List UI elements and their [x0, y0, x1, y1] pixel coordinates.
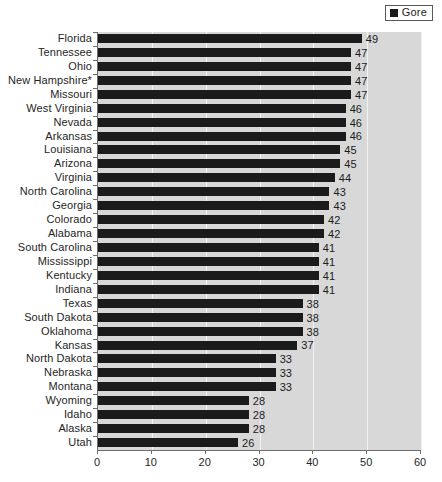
category-label: Missouri — [50, 88, 92, 101]
category-label: North Carolina — [20, 185, 92, 198]
bar[interactable] — [98, 145, 340, 154]
bar[interactable] — [98, 438, 238, 447]
bar-value-label: 41 — [323, 284, 335, 296]
x-tick-label-0: 0 — [94, 456, 100, 468]
chart-legend: Gore — [385, 5, 433, 21]
category-label: West Virginia — [26, 102, 92, 115]
bar[interactable] — [98, 173, 335, 182]
bar[interactable] — [98, 34, 362, 43]
legend-swatch-gore — [390, 9, 398, 17]
bar-value-label: 41 — [323, 242, 335, 254]
bar[interactable] — [98, 271, 319, 280]
bar[interactable] — [98, 368, 276, 377]
bar-row: 45 — [98, 157, 421, 171]
bar[interactable] — [98, 132, 346, 141]
bar[interactable] — [98, 243, 319, 252]
bar[interactable] — [98, 299, 303, 308]
category-label: Arizona — [54, 157, 92, 170]
bar[interactable] — [98, 76, 351, 85]
category-label: South Carolina — [18, 241, 92, 254]
category-label: Nevada — [53, 116, 92, 129]
x-tick-mark-20 — [205, 450, 206, 454]
bar[interactable] — [98, 104, 346, 113]
category-label: New Hampshire* — [8, 74, 92, 87]
bar[interactable] — [98, 159, 340, 168]
bar-row: 37 — [98, 339, 421, 353]
category-axis-labels: FloridaTennesseeOhioNew Hampshire*Missou… — [0, 32, 92, 450]
bar-row: 43 — [98, 185, 421, 199]
bar[interactable] — [98, 382, 276, 391]
bar[interactable] — [98, 313, 303, 322]
bar-value-label: 38 — [307, 297, 319, 309]
category-label: Oklahoma — [41, 325, 92, 338]
category-label: Arkansas — [45, 130, 92, 143]
bar[interactable] — [98, 285, 319, 294]
bar[interactable] — [98, 410, 249, 419]
category-label: Kansas — [55, 339, 92, 352]
category-label: Ohio — [68, 60, 92, 73]
bar-value-label: 45 — [344, 158, 356, 170]
category-label: Wyoming — [46, 394, 92, 407]
bar-row: 41 — [98, 241, 421, 255]
x-tick-mark-0 — [97, 450, 98, 454]
bar-rows: 4947474747464646454544434342424141414138… — [98, 32, 421, 450]
bar[interactable] — [98, 48, 351, 57]
bar-value-label: 42 — [328, 228, 340, 240]
bar-value-label: 49 — [366, 33, 378, 45]
bar-row: 49 — [98, 32, 421, 46]
bar-value-label: 45 — [344, 144, 356, 156]
bar-value-label: 41 — [323, 256, 335, 268]
bar-row: 33 — [98, 352, 421, 366]
bar[interactable] — [98, 341, 297, 350]
bar-value-label: 47 — [355, 61, 367, 73]
bar[interactable] — [98, 257, 319, 266]
bar[interactable] — [98, 118, 346, 127]
bar[interactable] — [98, 201, 329, 210]
bar-row: 41 — [98, 283, 421, 297]
category-label: Utah — [68, 436, 92, 449]
bar-row: 47 — [98, 74, 421, 88]
bar-row: 47 — [98, 60, 421, 74]
bar[interactable] — [98, 396, 249, 405]
category-label: Indiana — [55, 283, 92, 296]
category-label: Texas — [63, 297, 92, 310]
bar-row: 33 — [98, 366, 421, 380]
x-tick-label-50: 50 — [360, 456, 372, 468]
bar-row: 47 — [98, 46, 421, 60]
x-tick-mark-60 — [420, 450, 421, 454]
bar-row: 43 — [98, 199, 421, 213]
bar[interactable] — [98, 327, 303, 336]
bar-value-label: 43 — [333, 186, 345, 198]
bar[interactable] — [98, 90, 351, 99]
bar[interactable] — [98, 354, 276, 363]
bar[interactable] — [98, 187, 329, 196]
chart-container: Gore FloridaTennesseeOhioNew Hampshire*M… — [0, 0, 442, 482]
bar-row: 44 — [98, 171, 421, 185]
bar-value-label: 33 — [280, 367, 292, 379]
bar[interactable] — [98, 215, 324, 224]
category-label: Georgia — [52, 199, 92, 212]
category-label: Idaho — [64, 408, 92, 421]
x-tick-label-30: 30 — [252, 456, 264, 468]
bar-value-label: 28 — [253, 409, 265, 421]
bar-value-label: 42 — [328, 214, 340, 226]
bar-value-label: 33 — [280, 353, 292, 365]
bar-value-label: 38 — [307, 311, 319, 323]
x-tick-mark-50 — [366, 450, 367, 454]
bar-value-label: 47 — [355, 75, 367, 87]
bar[interactable] — [98, 424, 249, 433]
bar-value-label: 28 — [253, 423, 265, 435]
bar[interactable] — [98, 62, 351, 71]
bar-row: 28 — [98, 394, 421, 408]
gridline-60 — [421, 32, 422, 450]
bar[interactable] — [98, 229, 324, 238]
x-tick-mark-30 — [259, 450, 260, 454]
bar-value-label: 46 — [350, 102, 362, 114]
bar-value-label: 44 — [339, 172, 351, 184]
bar-row: 46 — [98, 102, 421, 116]
bar-row: 38 — [98, 325, 421, 339]
bar-row: 28 — [98, 422, 421, 436]
bar-row: 28 — [98, 408, 421, 422]
bar-row: 42 — [98, 227, 421, 241]
bar-value-label: 43 — [333, 200, 345, 212]
